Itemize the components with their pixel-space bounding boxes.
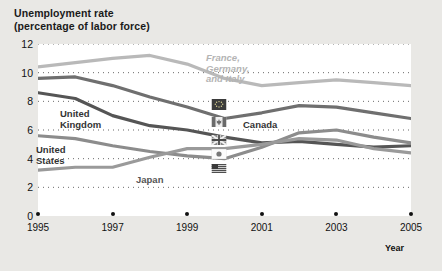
- y-axis-tick: 6: [27, 124, 33, 136]
- x-axis-tick: 1995: [27, 222, 49, 233]
- y-axis-tick: 0: [27, 210, 33, 222]
- series-label-canada: Canada: [243, 120, 277, 131]
- x-axis-label: Year: [385, 243, 404, 253]
- chart-title: Unemployment rate (percentage of labor f…: [14, 7, 150, 33]
- y-axis-tick: 10: [21, 67, 33, 79]
- y-axis-tick: 8: [27, 95, 33, 107]
- chart-figure: Unemployment rate (percentage of labor f…: [0, 0, 442, 271]
- x-axis-tick-dot: [111, 212, 115, 216]
- plot-area: 024681012 199519971999200120032005 Franc…: [38, 44, 411, 216]
- x-axis-tick-dot: [185, 212, 189, 216]
- x-axis-tick-dot: [260, 212, 264, 216]
- x-axis-tick: 2003: [325, 222, 347, 233]
- series-label-fgi: France, Germany, and Italy: [206, 53, 249, 85]
- y-axis-tick: 2: [27, 181, 33, 193]
- y-axis-tick: 4: [27, 153, 33, 165]
- x-axis-tick-dot: [36, 212, 40, 216]
- series-label-uk: United Kingdom: [60, 109, 101, 130]
- x-axis-tick: 2001: [251, 222, 273, 233]
- us-flag-icon: [212, 159, 227, 177]
- x-axis-tick-dot: [409, 212, 413, 216]
- x-axis-tick: 1999: [176, 222, 198, 233]
- eu-flag-icon: [212, 96, 227, 114]
- series-label-japan: Japan: [136, 175, 163, 186]
- x-axis-tick: 1997: [101, 222, 123, 233]
- canada-flag-icon: [212, 113, 227, 131]
- y-axis-tick: 12: [21, 38, 33, 50]
- x-axis-tick-dot: [334, 212, 338, 216]
- series-label-us: United States: [36, 145, 66, 166]
- x-axis-tick: 2005: [400, 222, 422, 233]
